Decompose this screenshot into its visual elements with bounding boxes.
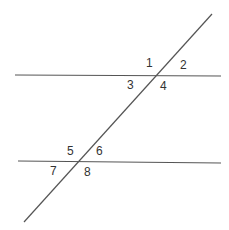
angle-label-2: 2 [180,58,187,72]
angle-label-6: 6 [96,144,103,158]
angle-label-8: 8 [84,165,91,179]
angle-label-1: 1 [146,56,153,70]
transversal-line [24,14,212,222]
angle-label-3: 3 [127,78,134,92]
top-parallel-line [15,75,221,76]
angle-label-4: 4 [160,79,167,93]
angle-label-5: 5 [67,144,74,158]
angle-label-7: 7 [50,164,57,178]
parallel-lines-diagram: 1 2 3 4 5 6 7 8 [0,0,229,230]
bottom-parallel-line [18,161,221,163]
